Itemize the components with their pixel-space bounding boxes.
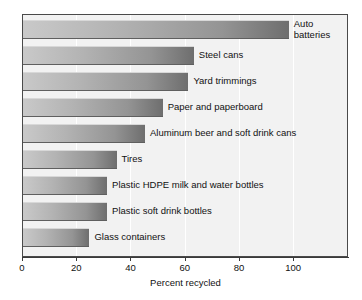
bar-row[interactable]: Paper and paperboard [23,98,263,117]
bar-row[interactable]: Plastic HDPE milk and water bottles [23,176,264,195]
bar-label: Aluminum beer and soft drink cans [145,128,296,139]
bar[interactable] [23,176,107,195]
bar-label: Plastic HDPE milk and water bottles [107,180,264,191]
x-tick-mark-0 [22,257,23,261]
bar-row[interactable]: Tires [23,150,142,169]
x-tick-mark-100 [293,257,294,261]
bar[interactable] [23,124,145,143]
bar[interactable] [23,98,163,117]
bar-row[interactable]: Auto batteries [23,20,348,39]
x-axis-title: Percent recycled [22,277,349,288]
bar-row[interactable]: Yard trimmings [23,72,257,91]
x-tick-mark-80 [239,257,240,261]
x-tick-mark-40 [130,257,131,261]
bar-label: Tires [117,154,143,165]
recycling-bar-chart: Auto batteriesSteel cansYard trimmingsPa… [0,0,362,300]
bar[interactable] [23,228,89,247]
bar-label: Steel cans [194,50,243,61]
bar[interactable] [23,202,107,221]
x-tick-label-20: 20 [71,262,82,273]
x-tick-label-100: 100 [285,262,301,273]
bar-row[interactable]: Glass containers [23,228,165,247]
bar-label: Glass containers [89,232,165,243]
x-tick-label-80: 80 [234,262,245,273]
x-tick-mark-20 [76,257,77,261]
x-tick-label-0: 0 [19,262,24,273]
bar[interactable] [23,72,188,91]
bar-row[interactable]: Aluminum beer and soft drink cans [23,124,296,143]
x-tick-label-40: 40 [125,262,136,273]
bar[interactable] [23,20,289,39]
x-tick-label-60: 60 [179,262,190,273]
bar[interactable] [23,46,194,65]
bar-row[interactable]: Plastic soft drink bottles [23,202,212,221]
bar-row[interactable]: Steel cans [23,46,243,65]
x-tick-mark-60 [185,257,186,261]
bar-label: Plastic soft drink bottles [107,206,212,217]
bar-label: Auto batteries [289,19,348,40]
bar-label: Paper and paperboard [163,102,263,113]
bar-label: Yard trimmings [188,76,256,87]
bar[interactable] [23,150,117,169]
plot-area: Auto batteriesSteel cansYard trimmingsPa… [22,14,348,257]
